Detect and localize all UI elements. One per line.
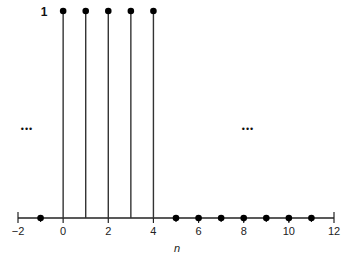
x-tick-label: 10 [283, 225, 295, 237]
x-axis-title: n [174, 242, 180, 254]
stem-marker [150, 8, 157, 15]
x-tick-label: 12 [328, 225, 340, 237]
stem-marker [173, 215, 180, 222]
stem-marker [60, 8, 67, 15]
stems [41, 11, 312, 222]
stem-marker [128, 8, 135, 15]
stem-marker [240, 215, 247, 222]
stem-markers [37, 8, 314, 222]
stem-marker [308, 215, 315, 222]
stem-marker [263, 215, 270, 222]
stem-marker [218, 215, 225, 222]
x-axis-tick-labels: −2024681012 [12, 225, 340, 237]
stem-marker [195, 215, 202, 222]
y-value-label: 1 [41, 5, 48, 19]
x-tick-label: 0 [60, 225, 66, 237]
stem-marker [286, 215, 293, 222]
x-tick-label: −2 [12, 225, 25, 237]
x-tick-label: 8 [241, 225, 247, 237]
stem-marker [37, 215, 44, 222]
x-tick-label: 6 [196, 225, 202, 237]
ellipsis-right: ••• [242, 124, 254, 134]
ellipsis-left: ••• [21, 124, 33, 134]
stem-marker [105, 8, 112, 15]
x-tick-label: 4 [150, 225, 156, 237]
stem-plot: −2024681012 1 n ••• ••• [0, 0, 343, 261]
x-tick-label: 2 [105, 225, 111, 237]
stem-marker [82, 8, 89, 15]
